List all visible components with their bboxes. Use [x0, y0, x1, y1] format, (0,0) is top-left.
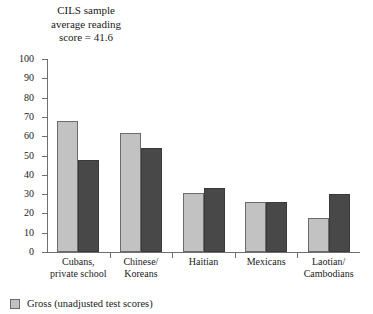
y-axis-line — [47, 59, 48, 253]
bar — [183, 193, 204, 252]
y-axis-tick — [42, 136, 47, 137]
bar — [141, 148, 162, 252]
y-axis-tick-label: 0 — [8, 247, 34, 257]
category-label-line: Koreans — [104, 268, 179, 280]
legend-swatch-gross — [10, 299, 20, 309]
bar — [308, 218, 329, 252]
y-axis-tick — [42, 117, 47, 118]
y-axis-tick-label: 80 — [8, 93, 34, 103]
bar — [204, 188, 225, 252]
y-axis-tick — [42, 59, 47, 60]
y-axis-labels: 0102030405060708090100 — [8, 59, 34, 253]
bar — [245, 202, 266, 252]
x-axis-category-labels: Cubans,private schoolChinese/KoreansHait… — [47, 256, 360, 286]
y-axis-tick-label: 70 — [8, 112, 34, 122]
y-axis-tick-label: 20 — [8, 208, 34, 218]
caption-line-1: CILS sample — [6, 4, 166, 18]
y-axis-tick — [42, 194, 47, 195]
legend-label-gross: Gross (unadjusted test scores) — [27, 298, 153, 309]
chart-legend: Gross (unadjusted test scores) — [10, 298, 153, 309]
x-axis-line — [47, 252, 360, 253]
bar — [329, 194, 350, 252]
bar-group — [57, 59, 99, 252]
bar-group — [308, 59, 350, 252]
y-axis-tick-label: 100 — [8, 54, 34, 64]
y-axis-tick — [42, 156, 47, 157]
bar-group — [120, 59, 162, 252]
y-axis-tick — [42, 98, 47, 99]
y-axis-tick-label: 40 — [8, 170, 34, 180]
y-axis-tick — [42, 175, 47, 176]
y-axis-tick — [42, 78, 47, 79]
y-axis-tick-label: 90 — [8, 73, 34, 83]
bar — [78, 160, 99, 252]
category-label-line: Cambodians — [291, 268, 366, 280]
y-axis-tick — [42, 213, 47, 214]
caption-line-2: average reading — [6, 18, 166, 32]
bar — [57, 121, 78, 252]
y-axis-tick — [42, 252, 47, 253]
y-axis-tick-label: 60 — [8, 131, 34, 141]
y-axis-tick — [42, 233, 47, 234]
bar-group — [183, 59, 225, 252]
y-axis-tick-label: 50 — [8, 151, 34, 161]
plot-area — [47, 59, 360, 253]
y-axis-tick-label: 30 — [8, 189, 34, 199]
bar-group — [245, 59, 287, 252]
x-axis-category-label: Laotian/Cambodians — [291, 256, 366, 280]
category-label-line: Laotian/ — [291, 256, 366, 268]
bar — [120, 133, 141, 252]
chart-caption: CILS sample average reading score = 41.6 — [6, 4, 166, 45]
bar — [266, 202, 287, 252]
caption-line-3: score = 41.6 — [6, 31, 166, 45]
y-axis-tick-label: 10 — [8, 228, 34, 238]
reading-score-bar-chart: CILS sample average reading score = 41.6… — [0, 0, 373, 314]
